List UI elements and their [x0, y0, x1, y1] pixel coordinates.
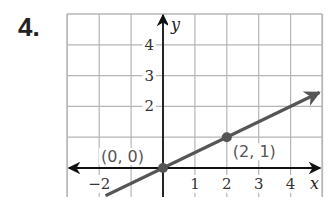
x-axis-label: x [310, 174, 319, 193]
grid-lines [67, 14, 323, 197]
y-axis-label: y [170, 15, 181, 34]
x-tick-label: 4 [286, 175, 296, 193]
tick-labels: −21234234xy [86, 15, 321, 193]
x-tick-label: 2 [222, 175, 232, 193]
data-point [158, 163, 168, 173]
y-tick-label: 4 [144, 36, 154, 54]
y-tick-label: 2 [144, 97, 154, 115]
data-point [222, 132, 232, 142]
x-tick-label: −2 [88, 175, 110, 193]
coordinate-graph: −21234234xy (0, 0)(2, 1) [0, 0, 331, 197]
y-tick-label: 3 [144, 67, 154, 85]
x-tick-label: 3 [254, 175, 264, 193]
point-label: (0, 0) [101, 147, 144, 166]
point-label: (2, 1) [233, 142, 276, 161]
x-tick-label: 1 [190, 175, 200, 193]
